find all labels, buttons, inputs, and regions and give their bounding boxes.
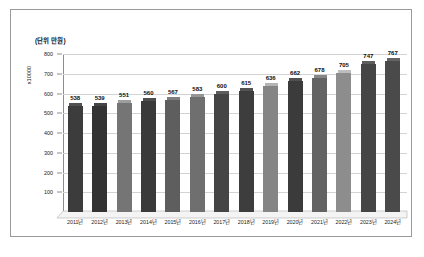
y-tick-label: 300: [44, 150, 53, 156]
bar[interactable]: [190, 97, 205, 212]
x-axis-label: 2022년: [336, 218, 353, 226]
bar-column[interactable]: 538: [68, 54, 83, 212]
y-tick-mark: [57, 73, 62, 74]
x-axis-label: 2012년: [91, 218, 108, 226]
x-axis-labels: 2011년2012년2013년2014년2015년2016년2017년2018년…: [63, 218, 407, 234]
unit-caption: (단위 만원): [35, 35, 66, 45]
bar-column[interactable]: 583: [190, 54, 205, 212]
bar-value-label: 560: [143, 90, 153, 96]
bar-top-cap-3d: [69, 103, 82, 106]
bar[interactable]: [141, 101, 156, 212]
x-axis-label: 2017년: [213, 218, 230, 226]
bar-value-label: 600: [217, 83, 227, 89]
bar-column[interactable]: 705: [336, 54, 351, 212]
bar-top-cap-3d: [314, 75, 327, 78]
x-axis-label: 2014년: [140, 218, 157, 226]
bar[interactable]: [117, 103, 132, 212]
bar-top-cap-3d: [289, 78, 302, 81]
bar-column[interactable]: 747: [361, 54, 376, 212]
bar[interactable]: [263, 86, 278, 212]
bar-top-cap-3d: [118, 100, 131, 103]
y-tick-mark: [57, 133, 62, 134]
bar-column[interactable]: 560: [141, 54, 156, 212]
bar-top-cap-3d: [240, 88, 253, 91]
y-tick-mark: [57, 93, 62, 94]
bar-top-cap-3d: [265, 83, 278, 86]
y-tick-mark: [57, 172, 62, 173]
x-axis-label: 2013년: [116, 218, 133, 226]
bar-column[interactable]: 600: [214, 54, 229, 212]
y-tick-label: 700: [44, 71, 53, 77]
bar-column[interactable]: 615: [239, 54, 254, 212]
bar-column[interactable]: 551: [117, 54, 132, 212]
bar[interactable]: [385, 61, 400, 212]
bar[interactable]: [336, 73, 351, 212]
x-axis-label: 2024년: [384, 218, 401, 226]
y-tick-mark: [57, 152, 62, 153]
bar[interactable]: [68, 106, 83, 212]
y-tick-label: 800: [44, 51, 53, 57]
bar-column[interactable]: 767: [385, 54, 400, 212]
bar-value-label: 636: [266, 75, 276, 81]
bar[interactable]: [214, 94, 229, 213]
x-axis-label: 2023년: [360, 218, 377, 226]
bar-value-label: 538: [70, 95, 80, 101]
bar-top-cap-3d: [338, 70, 351, 73]
bar-value-label: 551: [119, 92, 129, 98]
bar-top-cap-3d: [94, 103, 107, 106]
plot-area: 100200300400500600700800 538539551560567…: [57, 54, 407, 212]
y-axis-title: x10000: [26, 53, 32, 97]
x-axis-label: 2016년: [189, 218, 206, 226]
bar-top-cap-3d: [167, 97, 180, 100]
x-axis-label: 2020년: [287, 218, 304, 226]
bar[interactable]: [165, 100, 180, 212]
bar-column[interactable]: 567: [165, 54, 180, 212]
y-tick-mark: [57, 54, 62, 55]
bar-top-cap-3d: [143, 98, 156, 101]
bar-series: 5385395515605675836006156366626787057477…: [63, 54, 405, 212]
y-tick-label: 100: [44, 189, 53, 195]
bar-value-label: 678: [314, 67, 324, 73]
x-axis-label: 2019년: [262, 218, 279, 226]
bar-column[interactable]: 678: [312, 54, 327, 212]
bar-top-cap-3d: [362, 61, 375, 64]
bar-value-label: 747: [363, 53, 373, 59]
bar[interactable]: [92, 106, 107, 212]
bar-value-label: 705: [339, 62, 349, 68]
bar-top-cap-3d: [191, 94, 204, 97]
bar-top-cap-3d: [216, 91, 229, 94]
y-tick-mark: [57, 113, 62, 114]
y-tick-label: 200: [44, 170, 53, 176]
bar-value-label: 567: [168, 89, 178, 95]
y-tick-label: 500: [44, 110, 53, 116]
bar-column[interactable]: 539: [92, 54, 107, 212]
bar[interactable]: [288, 81, 303, 212]
x-axis-label: 2011년: [67, 218, 83, 226]
x-axis-label: 2018년: [238, 218, 255, 226]
bar[interactable]: [361, 64, 376, 212]
bar-value-label: 767: [388, 50, 398, 56]
y-tick-mark: [57, 192, 62, 193]
bar-value-label: 615: [241, 80, 251, 86]
bar-value-label: 662: [290, 70, 300, 76]
bar-column[interactable]: 636: [263, 54, 278, 212]
chart-frame: (단위 만원) x10000 100200300400500600700800 …: [10, 9, 412, 237]
x-axis-label: 2021년: [311, 218, 328, 226]
bar-value-label: 539: [95, 95, 105, 101]
y-tick-label: 400: [44, 130, 53, 136]
bar-column[interactable]: 662: [288, 54, 303, 212]
bar[interactable]: [312, 78, 327, 212]
bar-top-cap-3d: [387, 58, 400, 61]
y-tick-label: 600: [44, 91, 53, 97]
bar[interactable]: [239, 91, 254, 212]
bar-value-label: 583: [192, 86, 202, 92]
x-axis-label: 2015년: [165, 218, 182, 226]
